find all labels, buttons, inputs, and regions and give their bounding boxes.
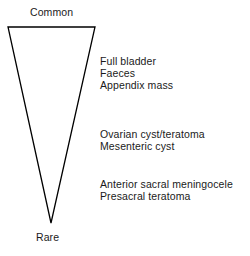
list-item: Appendix mass [100,79,173,91]
common-label: Common [30,6,73,18]
intermediate-group: Ovarian cyst/teratoma Mesenteric cyst [100,128,205,152]
list-item: Faeces [100,67,173,79]
list-item: Ovarian cyst/teratoma [100,128,205,140]
common-group: Full bladder Faeces Appendix mass [100,55,173,92]
inverted-triangle-shape [8,27,95,223]
rare-label: Rare [36,231,59,243]
list-item: Anterior sacral meningocele [100,178,233,190]
figure-container: Common Rare Full bladder Faeces Appendix… [0,0,250,256]
rare-group: Anterior sacral meningocele Presacral te… [100,178,233,202]
list-item: Presacral teratoma [100,190,233,202]
list-item: Mesenteric cyst [100,140,205,152]
list-item: Full bladder [100,55,173,67]
